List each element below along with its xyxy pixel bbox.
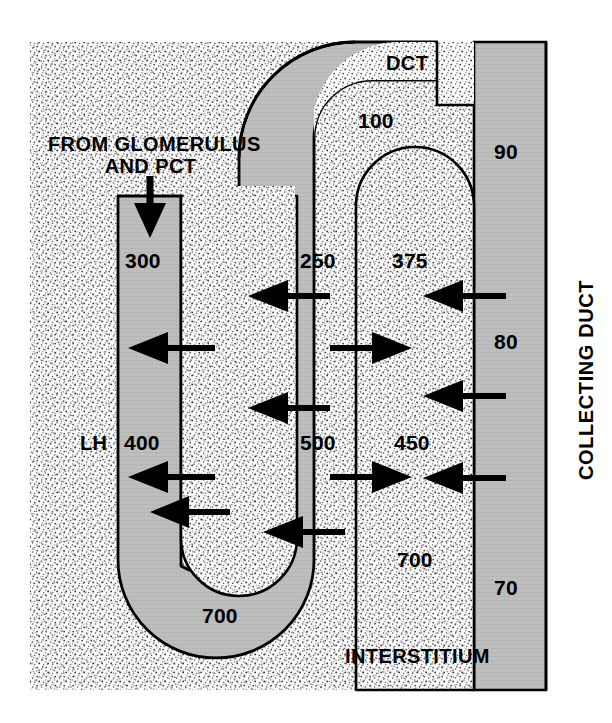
dct-label: DCT [386,52,428,74]
value-loop-bend: 700 [202,605,238,626]
value-descending-limb-mid: 400 [124,432,160,453]
value-interstitium-mid: 450 [394,432,430,453]
value-interstitium-upper: 375 [392,250,428,271]
value-dct-outflow: 100 [358,110,394,131]
interstitium-label: INTERSTITIUM [345,645,490,667]
value-collecting-duct-top: 90 [494,141,518,162]
from-glomerulus-label: FROM GLOMERULUS AND PCT [48,133,253,178]
value-ascending-limb-mid: 500 [300,432,336,453]
value-collecting-duct-mid: 80 [494,331,518,352]
value-collecting-duct-bottom: 70 [494,577,518,598]
lh-label: LH [80,432,107,454]
value-interstitium-lower: 700 [397,549,433,570]
collecting-duct-label: COLLECTING DUCT [576,280,596,480]
diagram-canvas [0,0,612,723]
inner-interstitium-pocket [356,147,474,690]
value-ascending-limb-top: 250 [300,250,336,271]
value-descending-limb-top: 300 [125,250,161,271]
nephron-countercurrent-diagram: FROM GLOMERULUS AND PCT DCT LH INTERSTIT… [0,0,612,723]
from-glomerulus-line1: FROM GLOMERULUS [48,133,261,155]
from-glomerulus-line2: AND PCT [105,155,197,177]
